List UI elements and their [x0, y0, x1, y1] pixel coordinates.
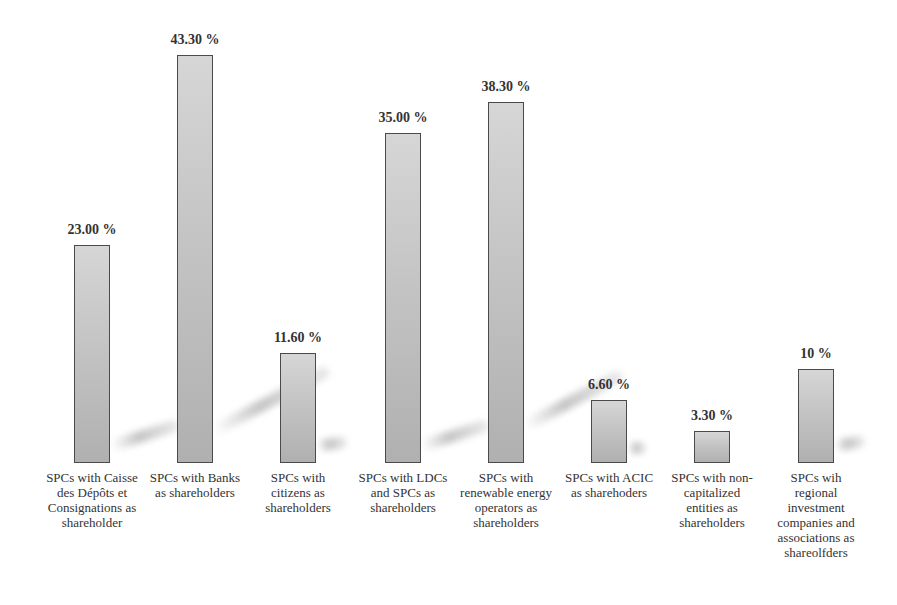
bar-shadow [110, 419, 180, 452]
category-label: SPCs with Banks as shareholders [136, 470, 254, 500]
value-label: 23.00 % [42, 222, 142, 238]
bar-regional-investment [798, 369, 834, 463]
bar-caisse-depots [74, 245, 110, 463]
value-label: 10 % [766, 346, 866, 362]
bar-shadow [628, 442, 646, 454]
category-label: SPCs with Caisse des Dépôts et Consignat… [33, 470, 151, 530]
bar-renewable-operators [488, 102, 524, 463]
value-label: 6.60 % [559, 377, 659, 393]
category-label: SPCs wih regional investment companies a… [757, 470, 875, 560]
category-label: SPCs with non- capitalized entities as s… [653, 470, 771, 530]
bar-non-capitalized [694, 431, 730, 463]
category-label: SPCs with citizens as shareholders [239, 470, 357, 515]
bar-ldcs-spcs [385, 133, 421, 463]
value-label: 38.30 % [456, 79, 556, 95]
value-label: 3.30 % [662, 408, 762, 424]
category-label: SPCs with ACIC as sharehoders [550, 470, 668, 500]
value-label: 35.00 % [353, 110, 453, 126]
bar-chart: 23.00 % 43.30 % 11.60 % 35.00 % 38.30 % … [0, 0, 897, 605]
bar-shadow [420, 419, 490, 452]
value-label: 11.60 % [248, 330, 348, 346]
bar-citizens [280, 353, 316, 463]
bar-shadow [834, 435, 866, 452]
bar-shadow [316, 436, 347, 452]
value-label: 43.30 % [145, 32, 245, 48]
category-label: SPCs with LDCs and SPCs as shareholders [344, 470, 462, 515]
bar-acic [591, 400, 627, 463]
category-label: SPCs with renewable energy operators as … [447, 470, 565, 530]
bar-banks [177, 55, 213, 463]
